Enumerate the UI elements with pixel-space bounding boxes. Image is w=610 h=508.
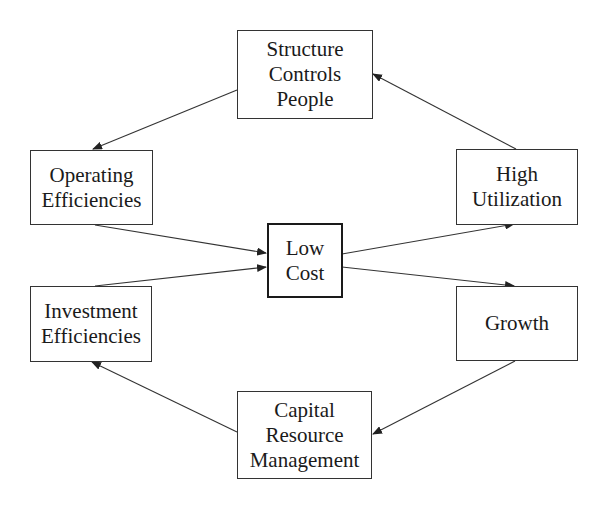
node-label: Investment Efficiencies: [41, 299, 141, 349]
node-operating-efficiencies: Operating Efficiencies: [30, 150, 153, 225]
node-label: Operating Efficiencies: [42, 163, 142, 213]
arrow-lowcost-to-growth: [342, 267, 514, 286]
arrow-capital-to-investment: [92, 362, 237, 432]
node-investment-efficiencies: Investment Efficiencies: [30, 286, 152, 362]
arrow-growth-to-capital: [373, 361, 515, 434]
node-growth: Growth: [456, 286, 578, 361]
node-low-cost: Low Cost: [267, 223, 343, 298]
node-label: Structure Controls People: [267, 37, 344, 112]
arrow-structure-to-operating: [93, 90, 237, 149]
node-label: Growth: [485, 311, 549, 336]
node-high-utilization: High Utilization: [456, 149, 578, 225]
node-label: Low Cost: [286, 236, 325, 286]
node-label: High Utilization: [472, 162, 562, 212]
arrow-operating-to-lowcost: [95, 225, 266, 253]
arrow-highutil-to-structure: [373, 74, 516, 149]
arrow-lowcost-to-highutil: [342, 224, 514, 254]
node-capital-resource-management: Capital Resource Management: [237, 391, 372, 479]
node-label: Capital Resource Management: [250, 398, 360, 473]
arrow-investment-to-lowcost: [95, 267, 266, 286]
node-structure-controls-people: Structure Controls People: [237, 30, 373, 119]
